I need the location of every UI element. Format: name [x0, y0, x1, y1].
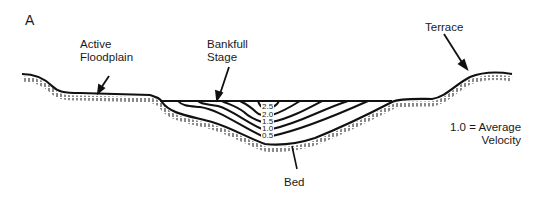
- bankfull-stage-line-1: Bankfull: [207, 38, 248, 51]
- active-floodplain-line-2: Floodplain: [80, 51, 133, 64]
- isovel-label-0-5: 0.5: [261, 132, 274, 140]
- bankfull-stage-label: Bankfull Stage: [207, 38, 248, 64]
- terrace-label: Terrace: [425, 21, 463, 34]
- legend-line-2: Velocity: [450, 134, 521, 147]
- active-floodplain-label: Active Floodplain: [80, 38, 133, 64]
- panel-label: A: [25, 14, 34, 27]
- legend-line-1: 1.0 = Average: [450, 121, 521, 134]
- active-floodplain-line-1: Active: [80, 38, 133, 51]
- legend-note: 1.0 = Average Velocity: [450, 121, 521, 147]
- bed-label: Bed: [284, 176, 304, 189]
- bankfull-stage-line-2: Stage: [207, 51, 248, 64]
